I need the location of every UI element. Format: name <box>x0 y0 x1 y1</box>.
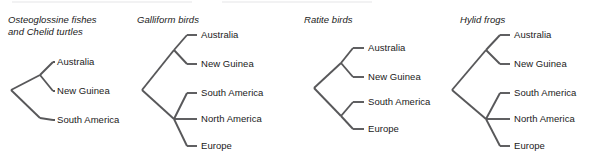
leaf-label: Australia <box>201 30 238 40</box>
leaf-label: South America <box>368 97 430 107</box>
branch-lower-to-south-america <box>174 93 187 119</box>
branch-root-to-lower-clade <box>452 90 486 119</box>
branch-upper-to-new-guinea <box>341 63 353 77</box>
tree-branches <box>448 0 605 160</box>
leaf-label: South America <box>57 115 119 125</box>
leaf-label: South America <box>201 88 263 98</box>
branch-root-to-upper-clade <box>452 50 486 90</box>
leaf-label: South America <box>514 88 576 98</box>
branch-tip-south-america <box>40 118 53 120</box>
branch-root-to-lower-clade <box>314 88 341 116</box>
branch-upper-to-new-guinea <box>174 50 187 64</box>
branch-lower-to-europe <box>174 119 187 146</box>
branch-inner-to-australia <box>40 62 53 75</box>
tree-panel-ratite-birds: Ratite birds Australia New Guinea Sout <box>302 0 457 160</box>
leaf-label: New Guinea <box>514 59 567 69</box>
leaf-label: Australia <box>57 57 94 67</box>
branch-root-to-south-america <box>11 90 40 118</box>
leaf-label: New Guinea <box>57 86 110 96</box>
leaf-label: New Guinea <box>368 72 421 82</box>
branch-root-to-inner <box>11 75 40 90</box>
branch-root-to-upper-clade <box>314 63 341 88</box>
branch-inner-to-new-guinea <box>40 75 53 91</box>
leaf-label: North America <box>514 114 575 124</box>
tree-panel-galliform-birds: Galliform birds Australia <box>135 0 300 160</box>
tree-panel-osteoglossine-fishes-and-chelid-turtles: Osteoglossine fishes and Chelid turtles … <box>0 0 140 160</box>
tree-panel-hylid-frogs: Hylid frogs Australia Ne <box>448 0 605 160</box>
leaf-label: Europe <box>514 141 545 151</box>
branch-upper-to-australia <box>341 48 353 63</box>
branch-lower-to-south-america <box>341 102 353 116</box>
branch-upper-to-australia <box>174 35 187 50</box>
branch-upper-to-new-guinea <box>486 50 500 64</box>
branch-lower-to-europe <box>486 119 500 146</box>
tree-branches <box>0 0 140 160</box>
branch-root-to-upper-clade <box>142 50 174 90</box>
leaf-label: North America <box>201 114 262 124</box>
branch-upper-to-australia <box>486 35 500 50</box>
leaf-label: New Guinea <box>201 59 254 69</box>
leaf-label: Europe <box>201 141 232 151</box>
branch-lower-to-south-america <box>486 93 500 119</box>
leaf-label: Australia <box>514 30 551 40</box>
branch-lower-to-europe <box>341 116 353 129</box>
phylogenetic-trees-figure: Osteoglossine fishes and Chelid turtles … <box>0 0 605 160</box>
leaf-label: Australia <box>368 43 405 53</box>
branch-root-to-lower-clade <box>142 90 174 119</box>
leaf-label: Europe <box>368 124 399 134</box>
tree-branches <box>135 0 300 160</box>
